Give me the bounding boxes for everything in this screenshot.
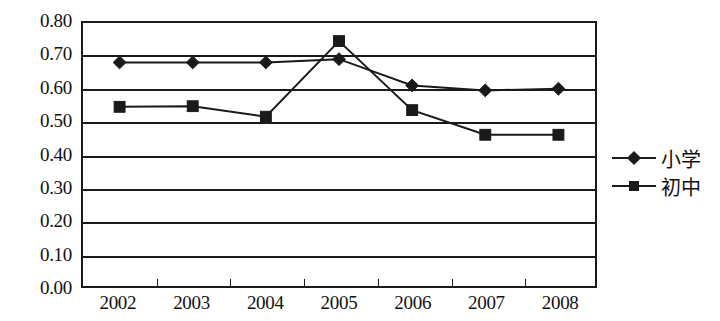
chart-legend: 小学 初中 xyxy=(612,144,720,200)
gridline xyxy=(83,222,595,224)
data-point-marker xyxy=(259,56,272,69)
x-tick-label: 2002 xyxy=(99,292,136,314)
x-tick-label: 2004 xyxy=(247,292,284,314)
gridline xyxy=(83,89,595,91)
diamond-marker-icon xyxy=(612,149,656,167)
gridline xyxy=(83,156,595,158)
gridline xyxy=(83,256,595,258)
plot-area xyxy=(81,21,597,288)
data-point-marker xyxy=(480,129,491,140)
data-point-marker xyxy=(113,56,126,69)
legend-item-0[interactable]: 小学 xyxy=(612,144,720,172)
series-layer xyxy=(83,23,595,286)
data-point-marker xyxy=(334,36,345,47)
y-tick-label: 0.20 xyxy=(40,210,72,232)
x-axis-tick xyxy=(304,279,305,286)
legend-item-1[interactable]: 初中 xyxy=(612,172,720,200)
y-tick-label: 0.80 xyxy=(40,10,72,32)
x-axis-tick xyxy=(157,279,158,286)
x-axis-tick xyxy=(525,279,526,286)
gridline xyxy=(83,189,595,191)
x-tick-label: 2006 xyxy=(394,292,431,314)
gridline xyxy=(83,122,595,124)
gridline xyxy=(83,55,595,57)
y-tick-label: 0.50 xyxy=(40,110,72,132)
square-marker-icon xyxy=(612,177,656,195)
line-chart: 0.800.700.600.500.400.300.200.100.00 200… xyxy=(0,0,720,321)
data-point-marker xyxy=(407,105,418,116)
legend-label-1: 初中 xyxy=(661,172,701,201)
y-tick-label: 0.10 xyxy=(40,244,72,266)
data-point-marker xyxy=(553,129,564,140)
data-point-marker xyxy=(187,101,198,112)
x-axis-tick xyxy=(378,279,379,286)
x-tick-label: 2005 xyxy=(321,292,358,314)
y-tick-label: 0.40 xyxy=(40,144,72,166)
y-axis: 0.800.700.600.500.400.300.200.100.00 xyxy=(0,0,78,321)
y-tick-label: 0.70 xyxy=(40,43,72,65)
x-tick-label: 2007 xyxy=(468,292,505,314)
x-tick-label: 2003 xyxy=(173,292,210,314)
y-tick-label: 0.60 xyxy=(40,77,72,99)
data-point-marker xyxy=(186,56,199,69)
x-axis: 2002200320042005200620072008 xyxy=(81,292,597,321)
x-axis-tick xyxy=(452,279,453,286)
legend-label-0: 小学 xyxy=(661,144,701,173)
y-tick-label: 0.30 xyxy=(40,177,72,199)
data-point-marker xyxy=(114,101,125,112)
x-tick-label: 2008 xyxy=(542,292,579,314)
x-axis-tick xyxy=(230,279,231,286)
y-tick-label: 0.00 xyxy=(40,277,72,299)
data-point-marker xyxy=(260,111,271,122)
